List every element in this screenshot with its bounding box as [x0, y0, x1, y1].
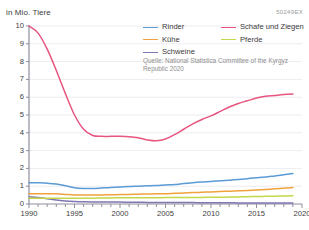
legend-item[interactable]: Schafe und Ziegen — [221, 22, 304, 32]
legend-color-swatch — [143, 27, 158, 28]
legend-label: Kühe — [162, 35, 180, 45]
chart-legend: RinderSchafe und ZiegenKühePferdeSchwein… — [143, 22, 309, 60]
legend-row: Schweine — [143, 47, 309, 57]
legend-label: Schafe und Ziegen — [240, 22, 304, 32]
legend-color-swatch — [143, 52, 158, 53]
series-line — [29, 188, 293, 196]
source-note: Quelle: National Statistica Committee of… — [143, 57, 305, 72]
legend-color-swatch — [143, 39, 158, 40]
legend-label: Rinder — [162, 22, 184, 32]
legend-item[interactable]: Pferde — [221, 35, 262, 45]
legend-row: KühePferde — [143, 35, 309, 45]
legend-row: RinderSchafe und Ziegen — [143, 22, 309, 32]
legend-item[interactable]: Kühe — [143, 35, 221, 45]
legend-label: Schweine — [162, 47, 195, 57]
chart-container: in Mio. Tiere 50249EX 012345678910 19901… — [0, 0, 309, 230]
y-axis-unit-label: in Mio. Tiere — [6, 8, 51, 17]
legend-color-swatch — [221, 39, 236, 40]
legend-color-swatch — [221, 27, 236, 28]
source-id-label: 50249EX — [276, 9, 303, 15]
series-line — [29, 196, 293, 199]
legend-item[interactable]: Schweine — [143, 47, 221, 57]
legend-label: Pferde — [240, 35, 262, 45]
legend-item[interactable]: Rinder — [143, 22, 221, 32]
